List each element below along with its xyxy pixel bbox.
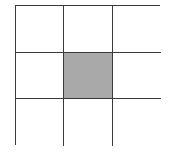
grid-cell-r1-c2 [113,53,161,99]
grid-cell-r1-c0 [16,53,64,99]
grid-cell-r2-c0 [16,99,64,146]
grid-cell-r2-c2 [113,99,161,146]
grid-cell-r2-c1 [64,99,113,146]
grid-cell-r0-c1 [64,6,113,53]
grid-cell-r0-c2 [113,6,161,53]
grid-cell-r0-c0 [16,6,64,53]
three-by-three-grid [15,5,160,145]
grid-cell-r1-c1-shaded [64,53,113,99]
